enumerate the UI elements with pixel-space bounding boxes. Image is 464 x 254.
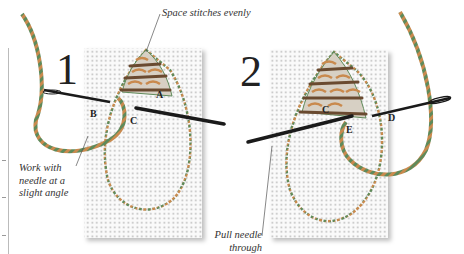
point-label-a: A	[156, 89, 163, 100]
canvas-panel-1	[22, 14, 224, 238]
caption-work-angle: Work with needle at a slight angle	[19, 162, 68, 200]
caption-line: needle at a	[19, 175, 68, 188]
caption-space-stitches: Space stitches evenly	[162, 7, 251, 20]
caption-line: through	[212, 242, 262, 254]
step-number-2: 2	[240, 50, 262, 94]
point-label-c-2: C	[322, 104, 329, 115]
stitch-illustration	[0, 0, 464, 254]
leader-line	[146, 14, 160, 52]
caption-line: Pull needle	[212, 229, 262, 242]
point-label-e: E	[346, 124, 353, 135]
caption-pull-needle: Pull needle through	[212, 229, 262, 254]
caption-line: Work with	[19, 162, 68, 175]
step-number-1: 1	[56, 48, 78, 92]
point-label-c: C	[130, 115, 137, 126]
point-label-b: B	[90, 108, 97, 119]
caption-line: slight angle	[19, 187, 68, 200]
point-label-d: D	[388, 112, 395, 123]
